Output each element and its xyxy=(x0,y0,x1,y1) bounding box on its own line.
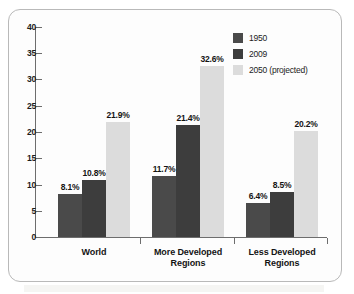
x-axis-group-separator xyxy=(234,238,235,244)
y-tick-label-10: 10 xyxy=(12,181,36,190)
y-tick-label-35: 35 xyxy=(12,49,36,58)
x-axis-group-separator xyxy=(140,238,141,244)
y-tick-label-0: 0 xyxy=(12,233,36,242)
bar-label-less-developed-2050: 20.2% xyxy=(286,120,326,129)
y-tick-label-5: 5 xyxy=(12,207,36,216)
bar-world-2050[interactable] xyxy=(106,122,130,237)
bar-less-developed-1950[interactable] xyxy=(246,203,270,237)
y-tick-mark xyxy=(36,211,42,212)
bar-world-2009[interactable] xyxy=(82,180,106,237)
y-tick-mark xyxy=(36,132,42,133)
bar-more-developed-2009[interactable] xyxy=(176,125,200,237)
category-label-line: Regions xyxy=(232,258,332,269)
category-label-line: More Developed xyxy=(138,247,238,258)
y-tick-mark xyxy=(36,53,42,54)
legend-item-2050-projected[interactable]: 2050 (projected) xyxy=(233,63,308,77)
y-tick-mark xyxy=(36,27,42,28)
y-tick-label-30: 30 xyxy=(12,75,36,84)
category-label-line: Regions xyxy=(138,258,238,269)
bar-label-more-developed-2050: 32.6% xyxy=(192,55,232,64)
y-tick-mark xyxy=(36,106,42,107)
x-axis-end-tick xyxy=(327,238,328,244)
bar-less-developed-2009[interactable] xyxy=(270,192,294,237)
bar-less-developed-2050[interactable] xyxy=(294,131,318,237)
legend-swatch-icon xyxy=(233,49,243,59)
category-label-more-developed: More Developed Regions xyxy=(138,247,238,269)
legend-label: 2050 (projected) xyxy=(249,66,308,75)
bar-label-world-2050: 21.9% xyxy=(98,111,138,120)
bar-more-developed-2050[interactable] xyxy=(200,66,224,237)
y-tick-mark xyxy=(36,185,42,186)
legend-swatch-icon xyxy=(233,33,243,43)
legend-item-1950[interactable]: 1950 xyxy=(233,31,308,45)
legend-label: 2009 xyxy=(249,50,267,59)
y-tick-label-25: 25 xyxy=(12,102,36,111)
y-tick-label-40: 40 xyxy=(12,23,36,32)
legend-item-2009[interactable]: 2009 xyxy=(233,47,308,61)
category-label-world: World xyxy=(54,247,134,258)
legend-label: 1950 xyxy=(249,34,267,43)
bar-more-developed-1950[interactable] xyxy=(152,176,176,237)
y-tick-mark xyxy=(36,237,42,238)
bar-chart: 40 35 30 25 20 15 10 5 0 8.1% 10.8% 21.9… xyxy=(0,0,354,294)
y-tick-label-15: 15 xyxy=(12,154,36,163)
y-tick-mark xyxy=(36,158,42,159)
x-axis-line xyxy=(35,237,327,238)
category-label-line: Less Developed xyxy=(232,247,332,258)
category-label-less-developed: Less Developed Regions xyxy=(232,247,332,269)
y-tick-label-20: 20 xyxy=(12,128,36,137)
bar-world-1950[interactable] xyxy=(58,194,82,237)
y-tick-mark xyxy=(36,79,42,80)
legend-swatch-icon xyxy=(233,65,243,75)
chart-legend: 1950 2009 2050 (projected) xyxy=(233,31,308,79)
category-label-line: World xyxy=(54,247,134,258)
